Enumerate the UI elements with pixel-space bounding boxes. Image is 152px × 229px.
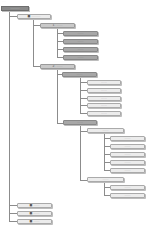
- level1-node[interactable]: ■ ………: [17, 14, 51, 19]
- section-2-2-2-node[interactable]: ……: [87, 177, 124, 182]
- connector: [33, 19, 34, 66]
- connector: [9, 205, 17, 206]
- diagram-caption: ……: [2, 0, 78, 3]
- section-2-1-child[interactable]: ……: [87, 96, 121, 101]
- connector: [104, 134, 105, 171]
- section-2-2-1-child[interactable]: ……: [110, 136, 145, 141]
- connector: [9, 16, 17, 17]
- connector: [80, 82, 87, 83]
- connector: [9, 213, 17, 214]
- section-2-2-1-child[interactable]: ……: [110, 160, 145, 165]
- connector: [33, 66, 40, 67]
- connector: [33, 25, 40, 26]
- section-2-2-1-node[interactable]: ……: [87, 128, 124, 133]
- section-2-1-node[interactable]: ……: [62, 72, 97, 77]
- connector: [9, 221, 17, 222]
- section-2-2-2-child[interactable]: ……: [110, 185, 145, 190]
- connector: [57, 69, 58, 123]
- connector: [9, 11, 10, 222]
- section-2-2-1-child[interactable]: ……: [110, 168, 145, 173]
- section-1-child[interactable]: ……: [63, 39, 98, 44]
- connector: [80, 105, 87, 106]
- section-2-2-1-child[interactable]: ……: [110, 152, 145, 157]
- connector: [80, 90, 87, 91]
- connector: [80, 131, 87, 132]
- bottom-node[interactable]: ■ ……: [17, 219, 52, 224]
- section-2-2-2-child[interactable]: ……: [110, 193, 145, 198]
- section-2-2-node[interactable]: ……: [63, 120, 97, 125]
- section-1-node[interactable]: 1. ……: [40, 23, 75, 28]
- section-2-1-child[interactable]: ……: [87, 103, 121, 108]
- section-2-1-child[interactable]: ……: [87, 111, 121, 116]
- bottom-node[interactable]: ■ ……: [17, 211, 52, 216]
- root-node[interactable]: ………: [1, 6, 29, 11]
- section-2-node[interactable]: 2. ……: [40, 64, 75, 69]
- bottom-node[interactable]: ■ ……: [17, 203, 52, 208]
- section-1-child[interactable]: ……: [63, 47, 98, 52]
- section-2-1-child[interactable]: ……: [87, 80, 121, 85]
- connector: [80, 98, 87, 99]
- section-2-1-child[interactable]: ……: [87, 88, 121, 93]
- section-1-child[interactable]: ……: [63, 31, 98, 36]
- connector: [80, 113, 87, 114]
- connector: [80, 180, 87, 181]
- connector: [80, 126, 81, 180]
- section-2-2-1-child[interactable]: ……: [110, 144, 145, 149]
- section-1-child[interactable]: ……: [63, 55, 98, 60]
